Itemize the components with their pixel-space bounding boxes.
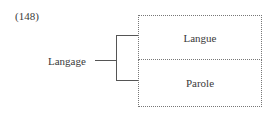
root-node-langage: Langage [48,55,86,67]
connector-stem [95,60,116,61]
bracket-vertical [116,35,117,81]
example-number: (148) [15,10,39,22]
bracket-arm-bottom [116,80,138,81]
branch-box-parole: Parole [138,59,262,107]
branch-label: Parole [186,77,214,89]
bracket-arm-top [116,35,138,36]
branch-box-langue: Langue [138,15,262,60]
branch-label: Langue [184,32,217,44]
